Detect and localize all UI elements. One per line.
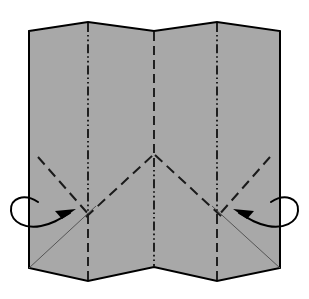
fold-diagram-container <box>0 0 309 299</box>
origami-fold-diagram <box>0 0 309 299</box>
